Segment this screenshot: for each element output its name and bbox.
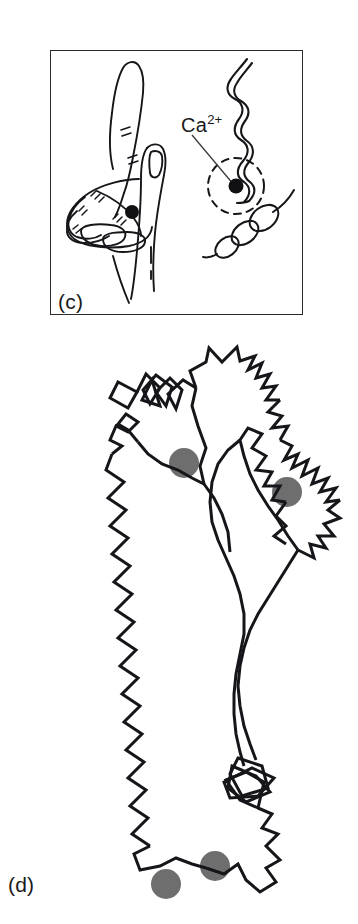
- calcium-ion-loop: [229, 179, 244, 194]
- figure-container: Ca2+ (c): [0, 0, 358, 924]
- panel-c-artwork: [51, 51, 304, 316]
- calcium-ions-group: [151, 448, 302, 899]
- calcium-ion-hand: [125, 205, 139, 219]
- panel-c-label: (c): [58, 291, 83, 312]
- backbone-n-lobe-internal: [204, 484, 230, 552]
- helix-bundle-lower: [224, 758, 274, 808]
- central-helix-zigzag: [106, 454, 206, 870]
- panel-d-label: (d): [8, 874, 34, 895]
- panel-c: Ca2+ (c): [50, 50, 303, 315]
- calcium-symbol: Ca: [181, 114, 207, 136]
- calcium-ion-label: Ca2+: [181, 113, 222, 135]
- calcium-charge: 2+: [207, 112, 222, 127]
- panel-d: (d): [0, 330, 358, 924]
- panel-d-artwork: [0, 330, 358, 924]
- hand-index-finger: [110, 62, 143, 217]
- helix-bundle-upper-left: [110, 380, 160, 408]
- calcium-ion-lower-free: [151, 869, 181, 899]
- backbone-n-lobe: [137, 347, 288, 440]
- calcium-ion-lower-chain: [200, 851, 230, 881]
